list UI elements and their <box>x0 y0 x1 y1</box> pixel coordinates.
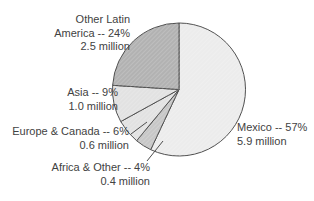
label-africa-other-line2: 0.4 million <box>52 175 150 189</box>
pie-chart-figure: Other Latin America -- 24% 2.5 million A… <box>0 0 314 201</box>
label-other-latin-america-line2: America -- 24% <box>54 27 130 41</box>
pie-slices-group <box>112 23 245 156</box>
label-asia-line2: 1.0 million <box>67 100 118 114</box>
label-europe-canada-line1: Europe & Canada -- 6% <box>12 125 129 139</box>
label-africa-other: Africa & Other -- 4% 0.4 million <box>52 161 150 188</box>
label-mexico: Mexico -- 57% 5.9 million <box>237 121 307 148</box>
label-other-latin-america-line3: 2.5 million <box>54 40 130 54</box>
label-africa-other-line1: Africa & Other -- 4% <box>52 161 150 175</box>
label-other-latin-america-line1: Other Latin <box>54 13 130 27</box>
pie-chart <box>0 0 314 201</box>
label-other-latin-america: Other Latin America -- 24% 2.5 million <box>54 13 130 54</box>
label-mexico-line1: Mexico -- 57% <box>237 121 307 135</box>
label-asia-line1: Asia -- 9% <box>67 86 118 100</box>
label-europe-canada: Europe & Canada -- 6% 0.6 million <box>12 125 129 152</box>
label-europe-canada-line2: 0.6 million <box>12 139 129 153</box>
label-asia: Asia -- 9% 1.0 million <box>67 86 118 113</box>
label-mexico-line2: 5.9 million <box>237 135 307 149</box>
